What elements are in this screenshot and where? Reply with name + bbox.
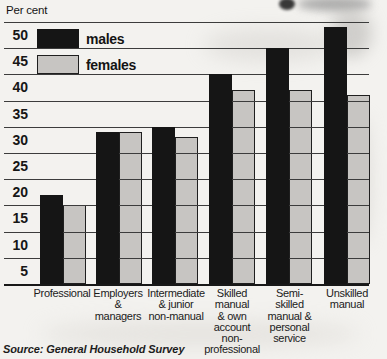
source-note: Source: General Household Survey [3, 343, 184, 355]
gridline [4, 74, 369, 75]
y-tick-label: 5 [0, 265, 28, 278]
gridline [4, 48, 369, 49]
bar-males [209, 74, 232, 284]
gridline [4, 127, 369, 128]
gridline [4, 101, 369, 102]
y-tick-label: 10 [0, 239, 28, 252]
bar-males [96, 132, 119, 284]
bar-males [40, 195, 63, 284]
x-axis-line [4, 284, 369, 286]
bar-females [347, 95, 370, 284]
y-tick-label: 40 [0, 81, 28, 94]
bar-males [324, 27, 347, 284]
y-axis-unit-label: Per cent [6, 4, 47, 16]
bar-females [119, 132, 142, 284]
y-tick-label: 25 [0, 160, 28, 173]
y-tick-label: 35 [0, 108, 28, 121]
legend-swatch-males [37, 29, 79, 48]
y-tick-label: 45 [0, 55, 28, 68]
bar-females [289, 90, 312, 284]
y-tick-label: 15 [0, 212, 28, 225]
legend-label-males: males [86, 31, 124, 47]
gridline [4, 179, 369, 180]
bar-females [232, 90, 255, 284]
bar-males [152, 127, 175, 284]
gridline [4, 22, 369, 23]
bar-females [63, 205, 86, 284]
y-tick-label: 30 [0, 134, 28, 147]
bar-males [266, 48, 289, 284]
legend-swatch-females [37, 55, 79, 74]
y-tick-label: 20 [0, 186, 28, 199]
y-tick-label: 50 [0, 29, 28, 42]
bar-females [175, 137, 198, 284]
category-label: Unskilledmanual [307, 288, 387, 311]
gridline [4, 153, 369, 154]
legend-label-females: females [86, 57, 136, 73]
